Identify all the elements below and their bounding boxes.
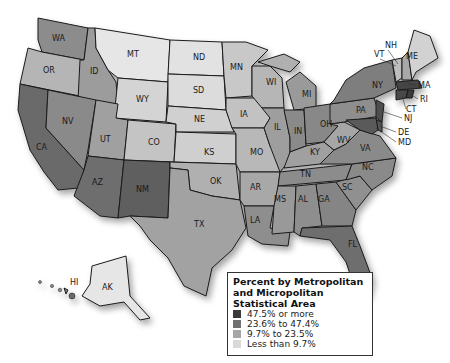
svg-text:UT: UT <box>100 135 111 144</box>
legend-item: 47.5% or more <box>233 309 367 319</box>
legend-item: 23.6% to 47.4% <box>233 319 367 329</box>
svg-text:MN: MN <box>230 63 243 72</box>
state-hi-island <box>39 281 42 284</box>
svg-text:AK: AK <box>102 283 113 292</box>
state-hi-island <box>69 293 75 299</box>
svg-text:IN: IN <box>294 127 302 136</box>
svg-text:NV: NV <box>62 117 74 126</box>
svg-text:NC: NC <box>362 163 374 172</box>
legend-swatch <box>233 310 241 318</box>
svg-text:SD: SD <box>193 86 204 95</box>
svg-text:KS: KS <box>204 148 214 157</box>
svg-text:PA: PA <box>356 106 366 115</box>
svg-text:DE: DE <box>398 128 409 137</box>
legend-title: Percent by Metropolitan and Micropolitan… <box>233 276 367 309</box>
svg-text:NE: NE <box>194 115 205 124</box>
state-wi <box>252 66 284 108</box>
svg-text:NY: NY <box>372 81 383 90</box>
svg-text:GA: GA <box>318 195 330 204</box>
svg-text:LA: LA <box>250 216 261 225</box>
svg-text:ME: ME <box>406 52 418 61</box>
svg-text:NH: NH <box>385 41 397 50</box>
svg-text:MT: MT <box>127 50 139 59</box>
state-nj <box>376 100 384 122</box>
svg-text:ND: ND <box>193 53 205 62</box>
svg-text:AL: AL <box>298 195 308 204</box>
svg-text:VT: VT <box>374 50 384 59</box>
svg-text:AR: AR <box>250 183 261 192</box>
svg-text:SC: SC <box>342 183 353 192</box>
map-legend: Percent by Metropolitan and Micropolitan… <box>227 272 373 356</box>
svg-text:HI: HI <box>70 278 78 287</box>
svg-text:MA: MA <box>418 81 431 90</box>
svg-text:KY: KY <box>310 148 320 157</box>
state-ny <box>330 60 396 104</box>
svg-text:IA: IA <box>240 110 248 119</box>
svg-text:WI: WI <box>266 78 276 87</box>
svg-text:OH: OH <box>320 120 332 129</box>
svg-text:CA: CA <box>36 143 48 152</box>
svg-text:WY: WY <box>136 95 149 104</box>
svg-text:NM: NM <box>136 185 149 194</box>
legend-item: 9.7% to 23.5% <box>233 329 367 339</box>
svg-text:TN: TN <box>299 170 311 179</box>
legend-swatch <box>233 320 241 328</box>
svg-text:NJ: NJ <box>404 114 412 123</box>
state-mi <box>286 72 316 110</box>
us-choropleth-map: WA OR CA ID NV MT WY UT AZ CO NM ND SD N… <box>0 0 450 363</box>
svg-text:CT: CT <box>406 105 417 114</box>
svg-text:WA: WA <box>52 34 65 43</box>
svg-text:AZ: AZ <box>92 178 103 187</box>
svg-text:OK: OK <box>210 177 222 186</box>
svg-text:MS: MS <box>274 195 286 204</box>
legend-item: Less than 9.7% <box>233 339 367 349</box>
svg-text:IL: IL <box>274 123 281 132</box>
svg-text:TX: TX <box>193 220 205 229</box>
state-ak <box>82 256 150 320</box>
legend-swatch <box>233 340 241 348</box>
svg-text:MI: MI <box>302 90 311 99</box>
svg-text:RI: RI <box>420 95 428 104</box>
svg-text:MD: MD <box>398 138 411 147</box>
svg-text:VA: VA <box>360 144 371 153</box>
svg-text:FL: FL <box>348 240 358 249</box>
state-hi-island <box>50 284 53 287</box>
svg-text:MO: MO <box>250 148 263 157</box>
svg-text:OR: OR <box>43 66 55 75</box>
svg-text:CO: CO <box>148 138 160 147</box>
state-hi-island <box>58 288 62 292</box>
legend-swatch <box>233 330 241 338</box>
state-hi <box>64 288 68 294</box>
svg-text:ID: ID <box>90 67 99 76</box>
svg-text:WV: WV <box>337 136 351 145</box>
